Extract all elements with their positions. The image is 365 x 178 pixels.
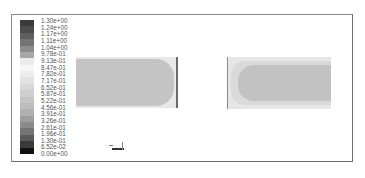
colorbar-swatch [20,148,34,154]
axis-triad-icon [109,142,125,152]
colorbar [20,20,34,154]
contour-right-wall [227,57,228,109]
contour-left [76,57,178,108]
colorbar-label: 0.00e+00 [41,151,67,158]
colorbar-labels: 1.30e+001.24e+001.17e+001.11e+001.04e+00… [41,18,67,158]
contour-right [227,57,331,109]
y-axis-icon [122,142,123,150]
contour-left-core [76,59,174,106]
contour-left-wall [176,57,178,108]
z-axis-icon [109,145,113,146]
contour-right-core [238,65,331,101]
